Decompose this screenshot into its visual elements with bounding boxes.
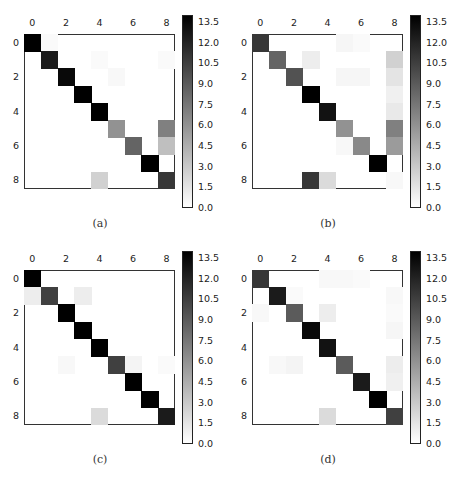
colorbar-tick-label: 4.5 xyxy=(426,141,441,151)
heatmap-cell xyxy=(108,356,125,374)
heatmap-cell xyxy=(252,34,269,52)
colorbar xyxy=(182,15,193,208)
heatmap-cell xyxy=(269,51,286,69)
heatmap-cell xyxy=(353,68,370,86)
heatmap-cell xyxy=(286,304,303,322)
colorbar-tick-label: 4.5 xyxy=(198,141,213,151)
confusion-matrix-panel: 02468024680.01.53.04.56.07.59.010.512.01… xyxy=(228,236,456,476)
colorbar xyxy=(182,251,193,444)
heatmap-cell xyxy=(386,68,403,86)
heatmap-plot xyxy=(252,270,403,425)
x-tick-label: 4 xyxy=(324,254,330,264)
heatmap-cell xyxy=(108,68,125,86)
colorbar-tick-label: 7.5 xyxy=(198,100,213,110)
heatmap-cell xyxy=(158,120,175,138)
heatmap-cell xyxy=(386,356,403,374)
heatmap-cell xyxy=(125,137,142,155)
heatmap-cell xyxy=(336,34,353,52)
colorbar-tick-label: 9.0 xyxy=(426,79,441,89)
heatmap-cell xyxy=(158,51,175,69)
colorbar-tick-label: 7.5 xyxy=(426,100,441,110)
panel-caption: (a) xyxy=(92,217,107,230)
x-tick-label: 2 xyxy=(63,254,69,264)
heatmap-cell xyxy=(302,322,319,340)
colorbar-tick-label: 6.0 xyxy=(426,121,441,131)
x-tick-label: 0 xyxy=(257,254,263,264)
heatmap-cell xyxy=(319,103,336,121)
colorbar-tick-label: 7.5 xyxy=(426,336,441,346)
x-tick-label: 0 xyxy=(29,254,35,264)
colorbar-tick-label: 3.0 xyxy=(426,162,441,172)
heatmap-cell xyxy=(302,172,319,190)
heatmap-cell xyxy=(125,356,142,374)
x-tick-label: 8 xyxy=(392,254,398,264)
colorbar-tick-label: 0.0 xyxy=(198,439,213,449)
colorbar-tick-label: 4.5 xyxy=(198,377,213,387)
heatmap-cell xyxy=(41,287,58,305)
heatmap-cell xyxy=(386,86,403,104)
heatmap-cell xyxy=(336,270,353,288)
heatmap-cell xyxy=(302,51,319,69)
heatmap-cell xyxy=(319,172,336,190)
heatmap-cell xyxy=(319,304,336,322)
heatmap-cell xyxy=(91,339,108,357)
heatmap-cell xyxy=(24,270,41,288)
colorbar-tick-label: 13.5 xyxy=(426,253,447,263)
confusion-matrix-panel: 02468024680.01.53.04.56.07.59.010.512.01… xyxy=(228,0,456,240)
colorbar-tick-label: 12.0 xyxy=(198,38,219,48)
x-tick-label: 6 xyxy=(358,254,364,264)
x-tick-label: 8 xyxy=(164,18,170,28)
x-tick-label: 6 xyxy=(358,18,364,28)
x-tick-label: 2 xyxy=(63,18,69,28)
y-tick-label: 8 xyxy=(5,176,19,186)
heatmap-cell xyxy=(141,391,158,409)
heatmap-cell xyxy=(386,51,403,69)
heatmap-cell xyxy=(125,373,142,391)
colorbar-tick-label: 0.0 xyxy=(198,203,213,213)
heatmap-cell xyxy=(158,172,175,190)
x-tick-label: 4 xyxy=(96,18,102,28)
colorbar-tick-label: 1.5 xyxy=(198,419,213,429)
colorbar-tick-label: 3.0 xyxy=(426,398,441,408)
heatmap-cell xyxy=(386,120,403,138)
heatmap-cell xyxy=(91,172,108,190)
y-tick-label: 2 xyxy=(5,308,19,318)
heatmap-cell xyxy=(286,356,303,374)
heatmap-cell xyxy=(386,137,403,155)
colorbar xyxy=(410,15,421,208)
heatmap-cell xyxy=(58,68,75,86)
heatmap-cell xyxy=(386,322,403,340)
heatmap-cell xyxy=(386,103,403,121)
heatmap-cell xyxy=(74,86,91,104)
colorbar-tick-label: 10.5 xyxy=(198,59,219,69)
colorbar-tick-label: 13.5 xyxy=(198,253,219,263)
y-tick-label: 2 xyxy=(233,308,247,318)
x-tick-label: 8 xyxy=(164,254,170,264)
heatmap-cell xyxy=(252,304,269,322)
heatmap-cell xyxy=(353,137,370,155)
panel-caption: (b) xyxy=(320,217,336,230)
heatmap-cell xyxy=(158,356,175,374)
colorbar-tick-label: 7.5 xyxy=(198,336,213,346)
heatmap-cell xyxy=(58,356,75,374)
heatmap-cell xyxy=(386,172,403,190)
heatmap-cell xyxy=(252,270,269,288)
heatmap-cell xyxy=(353,270,370,288)
colorbar-tick-label: 0.0 xyxy=(426,439,441,449)
y-tick-label: 4 xyxy=(5,343,19,353)
y-tick-label: 6 xyxy=(233,377,247,387)
colorbar-tick-label: 13.5 xyxy=(198,17,219,27)
y-tick-label: 8 xyxy=(233,176,247,186)
heatmap-cell xyxy=(336,356,353,374)
heatmap-cell xyxy=(91,103,108,121)
colorbar xyxy=(410,251,421,444)
heatmap-cell xyxy=(41,51,58,69)
heatmap-plot xyxy=(252,34,403,189)
colorbar-tick-label: 6.0 xyxy=(426,357,441,367)
colorbar-tick-label: 3.0 xyxy=(198,398,213,408)
heatmap-cell xyxy=(386,373,403,391)
y-tick-label: 6 xyxy=(233,141,247,151)
x-tick-label: 2 xyxy=(291,254,297,264)
heatmap-cell xyxy=(141,155,158,173)
heatmap-cell xyxy=(24,287,41,305)
